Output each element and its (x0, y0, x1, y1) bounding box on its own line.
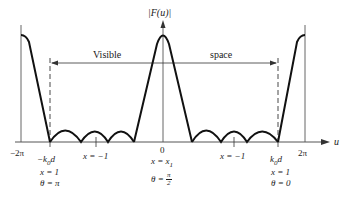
tick-label-two-pi: 2π (298, 149, 307, 158)
center-annotation-x: x = x1 (151, 157, 173, 169)
pattern-curve-right-grating-lobe (278, 35, 305, 142)
tick-label-neg-k0d: −k0d (37, 155, 55, 167)
pattern-curve-right-sidelobes (192, 131, 278, 143)
f-axis-arrow-icon (161, 20, 166, 28)
visible-label: Visible (93, 50, 121, 60)
tick-label-neg-two-pi: −2π (10, 149, 24, 158)
center-annotation-theta: θ = π2 (151, 172, 172, 187)
left-annotation-theta: θ = π (40, 179, 60, 188)
space-label: space (210, 50, 232, 60)
visible-arrow-right-icon (270, 61, 277, 66)
u-axis-arrow-icon (321, 139, 330, 145)
right-annotation-theta: θ = 0 (271, 179, 291, 188)
right-annotation-x: x = 1 (271, 168, 290, 177)
pattern-curve-left-grating-lobe (21, 35, 50, 142)
left-annotation-x: x = 1 (40, 168, 59, 177)
tick-label-k0d: k0d (270, 155, 282, 167)
visible-arrow-left-icon (51, 61, 58, 66)
tick-label-zero: 0 (160, 146, 165, 155)
y-axis-label: |F(u)| (148, 8, 171, 18)
tick-label-x-neg1-left: x = −1 (83, 152, 108, 161)
pattern-curve-left-sidelobes (50, 131, 134, 143)
tick-label-x-neg1-right: x = −1 (220, 152, 245, 161)
x-axis-label: u (334, 137, 339, 147)
